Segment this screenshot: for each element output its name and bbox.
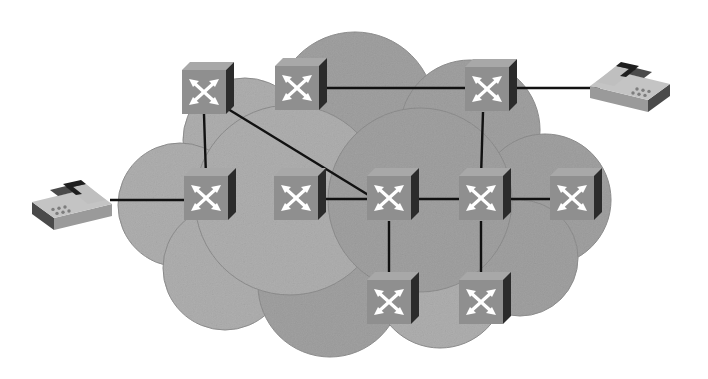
switch-bottom-right[interactable] [459,272,511,324]
switch-top-left[interactable] [182,62,234,114]
network-switch-icon [459,272,511,324]
desk-phone-top-right[interactable] [590,62,670,112]
network-switch-icon [274,168,326,220]
desk-phone-mid-left[interactable] [32,180,112,230]
network-switch-icon [550,168,602,220]
switch-top-center[interactable] [275,58,327,110]
switch-mid-left[interactable] [274,168,326,220]
diagram-canvas: .sw-face{fill:#8f8f8f;} .sw-top{fill:#a8… [0,0,708,379]
network-switch-icon [184,168,236,220]
network-switch-icon [275,58,327,110]
network-switch-icon [367,272,419,324]
network-switch-icon [459,168,511,220]
network-switch-icon [367,168,419,220]
switch-mid-far-right[interactable] [550,168,602,220]
switch-mid-far-left[interactable] [184,168,236,220]
switch-bottom-left[interactable] [367,272,419,324]
switch-mid-center[interactable] [367,168,419,220]
desk-phone-icon [32,180,112,230]
switch-mid-right[interactable] [459,168,511,220]
network-switch-icon [182,62,234,114]
switch-top-right[interactable] [465,59,517,111]
desk-phone-icon [590,62,670,112]
network-switch-icon [465,59,517,111]
network-topology-svg: .sw-face{fill:#8f8f8f;} .sw-top{fill:#a8… [0,0,708,379]
